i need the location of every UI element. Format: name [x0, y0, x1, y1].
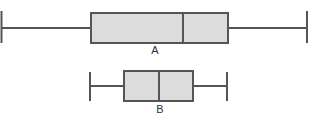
- box-plot-b: B: [90, 71, 227, 115]
- label-b: B: [156, 103, 163, 115]
- box-plot-a: A: [2, 11, 308, 56]
- box-a: [91, 13, 228, 43]
- label-a: A: [151, 44, 159, 56]
- box-plot-diagram: A B: [0, 0, 315, 120]
